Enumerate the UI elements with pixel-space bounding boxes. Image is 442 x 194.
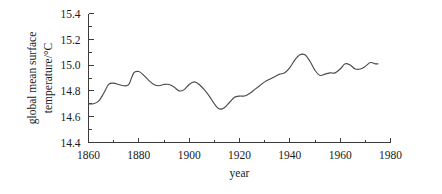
x-axis-title: year: [230, 167, 250, 180]
y-tick-label: 15.4: [60, 8, 80, 20]
x-tick-label: 1980: [379, 149, 402, 161]
x-tick-label: 1940: [278, 149, 301, 161]
y-axis-title-line1: global mean surface: [26, 32, 39, 125]
x-tick-label: 1880: [127, 149, 150, 161]
x-tick-label: 1920: [228, 149, 251, 161]
x-tick-label: 1860: [77, 149, 100, 161]
y-tick-label: 15.0: [60, 59, 80, 71]
y-axis-title-line2: temperature/°C: [42, 42, 55, 113]
chart-figure: 14.414.614.815.015.215.41860188019001920…: [0, 0, 442, 194]
y-tick-label: 14.6: [60, 111, 80, 123]
x-tick-label: 1960: [329, 149, 352, 161]
x-tick-label: 1900: [178, 149, 201, 161]
axis-spine: [89, 14, 391, 143]
y-tick-label: 15.2: [60, 34, 80, 46]
data-series-line: [89, 54, 378, 109]
y-tick-label: 14.8: [60, 85, 80, 97]
y-tick-label: 14.4: [60, 137, 80, 149]
line-chart: 14.414.614.815.015.215.41860188019001920…: [0, 0, 442, 194]
